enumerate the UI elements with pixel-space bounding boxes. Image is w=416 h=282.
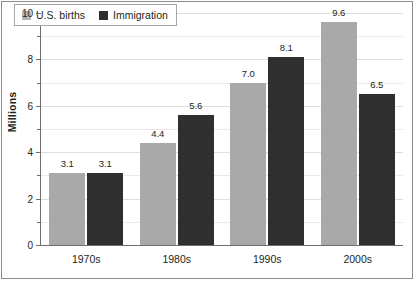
y-axis-tick-label: 2 bbox=[7, 193, 33, 204]
bar-births-1990s bbox=[230, 83, 266, 245]
bar-immigration-1980s bbox=[178, 115, 214, 245]
y-axis-tick bbox=[36, 59, 41, 60]
y-axis-tick-label: 10 bbox=[7, 8, 33, 19]
bar-value-label: 3.1 bbox=[99, 158, 112, 169]
x-axis-tick-label: 1990s bbox=[253, 253, 282, 265]
bar-births-1980s bbox=[140, 143, 176, 245]
legend-swatch-immigration-icon bbox=[99, 11, 108, 20]
y-axis-tick bbox=[36, 199, 41, 200]
x-axis-tick-label: 2000s bbox=[343, 253, 372, 265]
y-axis-tick bbox=[37, 129, 41, 130]
bar-value-label: 4.4 bbox=[151, 128, 164, 139]
bar-value-label: 9.6 bbox=[332, 7, 345, 18]
chart-legend: U.S. births Immigration bbox=[14, 4, 177, 26]
legend-item-immigration: Immigration bbox=[99, 9, 168, 21]
bar-chart: Millions U.S. births Immigration 0246810… bbox=[0, 0, 416, 282]
y-axis-label: Millions bbox=[6, 77, 18, 147]
y-axis-tick-label: 8 bbox=[7, 54, 33, 65]
y-axis-tick bbox=[36, 152, 41, 153]
bar-immigration-1970s bbox=[87, 173, 123, 245]
bar-immigration-2000s bbox=[359, 94, 395, 245]
y-axis-tick bbox=[36, 245, 41, 246]
y-axis-tick bbox=[36, 106, 41, 107]
x-axis-tick-label: 1980s bbox=[162, 253, 191, 265]
y-axis-tick-label: 6 bbox=[7, 100, 33, 111]
y-axis-tick bbox=[37, 175, 41, 176]
bar-value-label: 3.1 bbox=[61, 158, 74, 169]
legend-label-immigration: Immigration bbox=[113, 9, 168, 21]
y-axis-tick bbox=[37, 222, 41, 223]
bar-value-label: 8.1 bbox=[280, 42, 293, 53]
bar-births-2000s bbox=[321, 22, 357, 245]
legend-label-births: U.S. births bbox=[36, 9, 85, 21]
bar-value-label: 5.6 bbox=[189, 100, 202, 111]
y-axis-tick bbox=[36, 13, 41, 14]
x-axis-line bbox=[41, 245, 403, 246]
bar-value-label: 6.5 bbox=[370, 79, 383, 90]
bar-births-1970s bbox=[49, 173, 85, 245]
bar-value-label: 7.0 bbox=[242, 68, 255, 79]
x-axis-tick-label: 1970s bbox=[72, 253, 101, 265]
y-axis-tick bbox=[37, 36, 41, 37]
y-axis-tick bbox=[37, 83, 41, 84]
y-axis-tick-label: 0 bbox=[7, 240, 33, 251]
bar-immigration-1990s bbox=[268, 57, 304, 245]
plot-area bbox=[41, 13, 403, 245]
y-axis-tick-label: 4 bbox=[7, 147, 33, 158]
